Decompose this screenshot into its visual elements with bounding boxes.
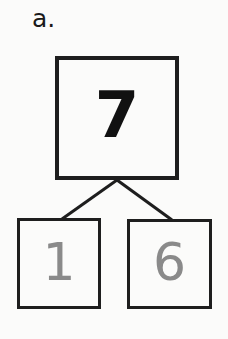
connector-right <box>117 180 172 220</box>
connector-left <box>62 180 117 219</box>
part-number-right: 6 <box>153 232 186 292</box>
part-box-left: 1 <box>17 218 101 309</box>
whole-box: 7 <box>55 56 179 180</box>
part-number-left: 1 <box>42 232 75 292</box>
whole-number: 7 <box>95 78 140 152</box>
part-box-right: 6 <box>127 219 212 309</box>
